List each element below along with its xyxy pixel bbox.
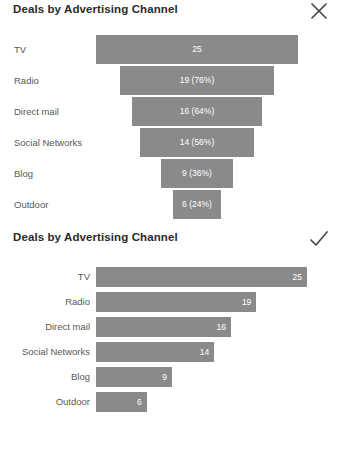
bar-value-label: 14 <box>96 342 209 362</box>
funnel-category-label: Outdoor <box>14 189 48 220</box>
funnel-row: Blog9 (36%) <box>0 158 342 189</box>
bar-category-label: Outdoor <box>0 391 90 416</box>
funnel-row: Outdoor6 (24%) <box>0 189 342 220</box>
funnel-bar-value: 14 (56%) <box>180 137 215 147</box>
bar-row: TV25 <box>0 266 342 291</box>
funnel-category-label: Radio <box>14 65 39 96</box>
funnel-row: Radio19 (76%) <box>0 65 342 96</box>
funnel-track: 6 (24%) <box>96 189 342 220</box>
funnel-bar-value: 6 (24%) <box>182 199 212 209</box>
funnel-bar: 19 (76%) <box>120 66 274 95</box>
funnel-category-label: Blog <box>14 158 33 189</box>
funnel-category-label: Direct mail <box>14 96 59 127</box>
bar-panel-header: Deals by Advertising Channel <box>0 228 342 254</box>
funnel-chart-panel: Deals by Advertising Channel TV25Radio19… <box>0 0 342 228</box>
bar-category-label: Blog <box>0 366 90 391</box>
funnel-category-label: Social Networks <box>14 127 82 158</box>
funnel-plot-area: TV25Radio19 (76%)Direct mail16 (64%)Soci… <box>0 34 342 220</box>
funnel-bar-value: 16 (64%) <box>180 106 215 116</box>
funnel-bar: 14 (56%) <box>140 128 253 157</box>
bar-value-label: 9 <box>96 367 167 387</box>
bar-track: 9 <box>96 366 342 391</box>
bar-track: 19 <box>96 291 342 316</box>
bar-category-label: Social Networks <box>0 341 90 366</box>
funnel-row: Social Networks14 (56%) <box>0 127 342 158</box>
funnel-track: 16 (64%) <box>96 96 342 127</box>
funnel-track: 14 (56%) <box>96 127 342 158</box>
funnel-bar-value: 25 <box>192 44 201 54</box>
funnel-bar: 16 (64%) <box>132 97 261 126</box>
bar-row: Direct mail16 <box>0 316 342 341</box>
bar-row: Radio19 <box>0 291 342 316</box>
check-icon <box>304 224 334 254</box>
bar-row: Social Networks14 <box>0 341 342 366</box>
bar-value-label: 25 <box>96 267 302 287</box>
funnel-panel-header: Deals by Advertising Channel <box>0 0 342 26</box>
bar-row: Outdoor6 <box>0 391 342 416</box>
funnel-category-label: TV <box>14 34 26 65</box>
bar-track: 16 <box>96 316 342 341</box>
bar-value-label: 6 <box>96 392 142 412</box>
funnel-track: 19 (76%) <box>96 65 342 96</box>
funnel-bar-value: 19 (76%) <box>180 75 215 85</box>
bar-track: 14 <box>96 341 342 366</box>
bar-category-label: TV <box>0 266 90 291</box>
bar-track: 6 <box>96 391 342 416</box>
funnel-bar-value: 9 (36%) <box>182 168 212 178</box>
page-title: Deals by Advertising Channel <box>13 231 178 243</box>
funnel-bar: 6 (24%) <box>173 190 221 219</box>
funnel-row: Direct mail16 (64%) <box>0 96 342 127</box>
bar-value-label: 19 <box>96 292 251 312</box>
bar-row: Blog9 <box>0 366 342 391</box>
bar-category-label: Radio <box>0 291 90 316</box>
bar-track: 25 <box>96 266 342 291</box>
funnel-bar: 25 <box>96 35 298 64</box>
bar-category-label: Direct mail <box>0 316 90 341</box>
funnel-track: 25 <box>96 34 342 65</box>
funnel-row: TV25 <box>0 34 342 65</box>
funnel-bar: 9 (36%) <box>161 159 234 188</box>
bar-plot-area: TV25Radio19Direct mail16Social Networks1… <box>0 266 342 416</box>
bar-chart-panel: Deals by Advertising Channel TV25Radio19… <box>0 228 342 455</box>
cross-icon <box>304 0 334 26</box>
funnel-track: 9 (36%) <box>96 158 342 189</box>
page-title: Deals by Advertising Channel <box>13 3 178 15</box>
bar-value-label: 16 <box>96 317 226 337</box>
